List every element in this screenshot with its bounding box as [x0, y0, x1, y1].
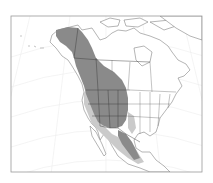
range-map: [0, 0, 213, 183]
arctic-islands: [100, 18, 176, 30]
